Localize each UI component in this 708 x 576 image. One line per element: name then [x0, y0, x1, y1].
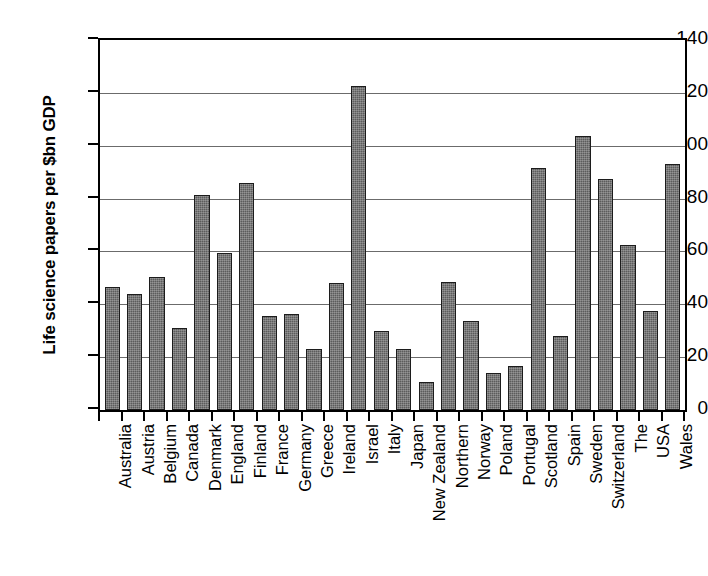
x-axis-tick	[481, 410, 483, 421]
bar-slot	[572, 40, 594, 410]
bar-chart: Life science papers per $bn GDP 14012010…	[0, 0, 708, 576]
bar-slot	[460, 40, 482, 410]
x-axis-tick	[413, 410, 415, 421]
x-axis-tick	[188, 410, 190, 421]
x-label-slot: Canada	[166, 424, 188, 574]
x-label-slot: Israel	[346, 424, 368, 574]
y-axis-title: Life science papers per $bn GDP	[40, 25, 60, 425]
bar[interactable]	[284, 314, 299, 410]
bar-slot	[482, 40, 504, 410]
x-axis-tick	[143, 410, 145, 421]
bar[interactable]	[665, 164, 680, 410]
x-axis-tick	[166, 410, 168, 421]
bar-slot	[325, 40, 347, 410]
x-axis-tick	[233, 410, 235, 421]
x-axis-tick	[571, 410, 573, 421]
x-label-slot: Belgium	[144, 424, 166, 574]
x-axis-tick	[593, 410, 595, 421]
y-axis-tick	[88, 407, 98, 409]
bar-slot	[594, 40, 616, 410]
bar-slot	[370, 40, 392, 410]
x-axis-tick	[526, 410, 528, 421]
x-axis-tick	[638, 410, 640, 421]
bar[interactable]	[239, 183, 254, 410]
bar[interactable]	[441, 282, 456, 410]
bar-slot	[527, 40, 549, 410]
x-label-slot: Italy	[368, 424, 390, 574]
bar[interactable]	[620, 245, 635, 410]
x-label-slot: Denmark	[189, 424, 211, 574]
bar[interactable]	[643, 311, 658, 410]
x-label-slot: Finland	[234, 424, 256, 574]
x-label-slot: Australia	[99, 424, 121, 574]
bar[interactable]	[374, 331, 389, 410]
bar-slot	[348, 40, 370, 410]
bar[interactable]	[598, 179, 613, 410]
y-axis-tick	[88, 354, 98, 356]
bar-slot	[392, 40, 414, 410]
x-label-slot: Greece	[301, 424, 323, 574]
bar-slot	[639, 40, 661, 410]
x-label-slot: Norway	[458, 424, 480, 574]
bar[interactable]	[194, 195, 209, 410]
bar-slot	[505, 40, 527, 410]
x-axis-labels: AustraliaAustriaBelgiumCanadaDenmarkEngl…	[98, 424, 683, 574]
x-label-slot: Portugal	[503, 424, 525, 574]
bar[interactable]	[351, 86, 366, 410]
x-label-slot: Sweden	[570, 424, 592, 574]
x-label-slot: Northern	[435, 424, 457, 574]
x-axis-tick	[436, 410, 438, 421]
bar[interactable]	[419, 382, 434, 410]
bar-slot	[415, 40, 437, 410]
x-axis-tick	[391, 410, 393, 421]
bar-slot	[549, 40, 571, 410]
x-axis-tick	[121, 410, 123, 421]
x-label-slot: Scotland	[525, 424, 547, 574]
bar-slot	[146, 40, 168, 410]
bar-slot	[303, 40, 325, 410]
bar-slot	[617, 40, 639, 410]
bar-slot	[437, 40, 459, 410]
bar[interactable]	[329, 283, 344, 410]
bar[interactable]	[262, 316, 277, 410]
x-axis-tick	[683, 410, 685, 421]
bar[interactable]	[486, 373, 501, 410]
bar[interactable]	[306, 349, 321, 410]
bar[interactable]	[531, 168, 546, 410]
x-axis-tick	[548, 410, 550, 421]
x-label-slot: Ireland	[323, 424, 345, 574]
y-axis-tick	[88, 143, 98, 145]
bar[interactable]	[127, 294, 142, 410]
x-label-slot: Japan	[390, 424, 412, 574]
bar[interactable]	[553, 336, 568, 410]
x-label-slot: Switzerland	[592, 424, 614, 574]
x-axis-tick	[278, 410, 280, 421]
x-axis-tick	[211, 410, 213, 421]
x-label-slot: Germany	[278, 424, 300, 574]
x-axis-tick	[301, 410, 303, 421]
x-axis-tick	[503, 410, 505, 421]
x-axis-tick	[458, 410, 460, 421]
bar-slot	[258, 40, 280, 410]
bar-slot	[123, 40, 145, 410]
x-axis-tick	[368, 410, 370, 421]
x-axis-tick	[256, 410, 258, 421]
bar[interactable]	[172, 328, 187, 410]
y-axis-tick	[88, 196, 98, 198]
bar[interactable]	[217, 253, 232, 410]
bar-slot	[101, 40, 123, 410]
x-axis-tick	[346, 410, 348, 421]
bar[interactable]	[463, 321, 478, 410]
bar[interactable]	[396, 349, 411, 410]
bar[interactable]	[105, 287, 120, 410]
bar[interactable]	[508, 366, 523, 410]
bar-slot	[280, 40, 302, 410]
x-label-slot: Poland	[480, 424, 502, 574]
bar[interactable]	[575, 136, 590, 410]
x-axis-tick	[616, 410, 618, 421]
bar-slot	[213, 40, 235, 410]
x-label-slot: England	[211, 424, 233, 574]
x-label-slot: France	[256, 424, 278, 574]
bar-slot	[191, 40, 213, 410]
bar[interactable]	[149, 277, 164, 410]
